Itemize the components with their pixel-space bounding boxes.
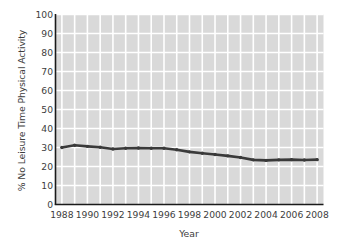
x-axis-tick-labels: 1988199019921994199619982000200220042006… [0, 210, 348, 228]
line-chart: % No Leisure Time Physical Activity 0102… [0, 0, 348, 248]
x-tick-label: 2008 [297, 210, 337, 219]
x-axis-title: Year [55, 228, 323, 239]
